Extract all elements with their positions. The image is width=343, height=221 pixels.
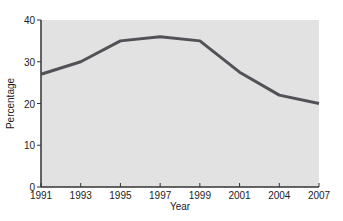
x-tick-label: 2004: [268, 190, 291, 201]
x-tick-label: 1993: [70, 190, 93, 201]
y-tick-label: 20: [24, 99, 36, 110]
y-tick-label: 30: [24, 57, 36, 68]
y-axis-label: Percentage: [5, 77, 16, 129]
line-chart: 010203040 199119931995199719992001200420…: [0, 0, 343, 221]
x-tick-label: 1997: [149, 190, 172, 201]
chart-svg: 010203040 199119931995199719992001200420…: [0, 0, 343, 221]
x-tick-label: 1995: [109, 190, 132, 201]
x-tick-label: 1999: [189, 190, 212, 201]
x-tick-label: 1991: [30, 190, 53, 201]
y-axis-ticks: 010203040: [24, 15, 41, 193]
x-tick-label: 2007: [308, 190, 331, 201]
y-tick-label: 40: [24, 15, 36, 26]
x-tick-label: 2001: [228, 190, 251, 201]
plot-area: [41, 20, 319, 187]
y-tick-label: 10: [24, 140, 36, 151]
x-axis-label: Year: [170, 201, 191, 212]
